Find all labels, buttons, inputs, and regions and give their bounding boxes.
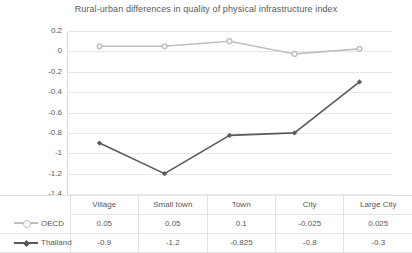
table-cell: -1.2 <box>139 234 207 253</box>
data-point-oecd-0 <box>97 44 102 49</box>
data-point-oecd-2 <box>227 39 232 44</box>
table-cell: -0.8 <box>276 234 344 253</box>
table-column-header: Town <box>207 196 275 215</box>
series-lines <box>67 31 392 194</box>
legend-label: OECD <box>41 219 64 228</box>
data-point-oecd-3 <box>292 52 297 57</box>
table-cell: 0.025 <box>344 215 412 234</box>
y-tick-label: -0.4 <box>22 88 62 96</box>
y-tick-label: 0 <box>22 47 62 55</box>
legend-marker-icon <box>14 219 38 227</box>
table-row: Thailand-0.9-1.2-0.825-0.8-0.3 <box>0 234 412 253</box>
legend-entry-thailand: Thailand <box>0 234 70 253</box>
y-tick-label: 0.2 <box>22 27 62 35</box>
data-point-oecd-1 <box>162 44 167 49</box>
table-cell: 0.05 <box>70 215 138 234</box>
table-cell: -0.9 <box>70 234 138 253</box>
plot-area <box>67 31 392 194</box>
legend-entry-oecd: OECD <box>0 215 70 234</box>
table-cell: -0.3 <box>344 234 412 253</box>
table-cell: 0.05 <box>139 215 207 234</box>
data-table: VillageSmall townTownCityLarge CityOECD0… <box>0 195 412 253</box>
y-tick-label: -0.8 <box>22 129 62 137</box>
y-tick-label: -1 <box>22 149 62 157</box>
table-cell: -0.025 <box>276 215 344 234</box>
table-row: OECD0.050.050.1-0.0250.025 <box>0 215 412 234</box>
data-point-thailand-0 <box>97 140 102 145</box>
y-tick-label: -0.6 <box>22 109 62 117</box>
table-column-header: Village <box>70 196 138 215</box>
data-point-oecd-4 <box>357 46 362 51</box>
table-column-header: City <box>276 196 344 215</box>
table-cell: 0.1 <box>207 215 275 234</box>
legend-marker-icon <box>14 239 38 247</box>
table-header-row: VillageSmall townTownCityLarge City <box>0 196 412 215</box>
series-line-thailand <box>100 82 360 174</box>
y-tick-label: -0.2 <box>22 68 62 76</box>
y-tick-label: -1.2 <box>22 170 62 178</box>
legend-label: Thailand <box>41 238 72 247</box>
table-cell: -0.825 <box>207 234 275 253</box>
table-column-header: Large City <box>344 196 412 215</box>
table-column-header: Small town <box>139 196 207 215</box>
chart-title: Rural-urban differences in quality of ph… <box>0 4 412 14</box>
table-corner-cell <box>0 196 70 215</box>
